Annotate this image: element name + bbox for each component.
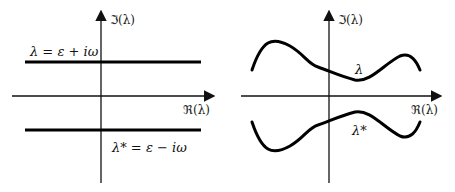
upper-curve-lambda — [252, 41, 420, 80]
complex-plane-diagram: ℑ(λ) ℜ(λ) λ = ε + iω λ* = ε − iω ℑ(λ) ℜ(… — [0, 0, 455, 192]
left-panel: ℑ(λ) ℜ(λ) λ = ε + iω λ* = ε − iω — [12, 12, 213, 183]
right-imag-axis-label: ℑ(λ) — [338, 13, 363, 27]
right-panel: ℑ(λ) ℜ(λ) λ λ* — [241, 12, 440, 183]
upper-line-label: λ = ε + iω — [29, 44, 99, 59]
lower-line-label: λ* = ε − iω — [111, 140, 187, 155]
right-real-axis-label: ℜ(λ) — [411, 103, 438, 117]
left-real-axis-label: ℜ(λ) — [183, 103, 210, 117]
left-imag-axis-label: ℑ(λ) — [110, 13, 135, 27]
upper-curve-label: λ — [354, 62, 363, 77]
lower-curve-label: λ* — [351, 123, 367, 138]
lower-curve-lambda-conj — [252, 112, 420, 151]
